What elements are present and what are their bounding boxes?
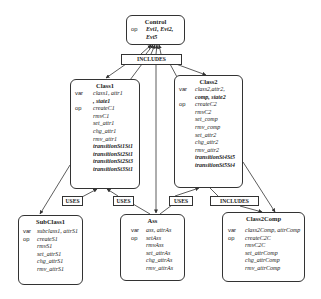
includes-label-class2comp: INCLUDES	[210, 196, 259, 206]
uses-label-class2-ass: USES	[169, 196, 193, 206]
class2comp-op: createC2C	[245, 235, 271, 243]
class1-var-keyword: var	[75, 90, 83, 98]
class2comp-op: set_attrComp	[245, 250, 278, 258]
uses-label-class1-ass: USES	[113, 196, 134, 206]
class1-op-keyword: op	[75, 105, 81, 113]
class1-transition: transitionSt1St1	[93, 143, 133, 151]
class1-op: createC1	[93, 105, 115, 113]
class2comp-var-keyword: var	[228, 227, 236, 235]
class2-title: Class2	[175, 78, 242, 86]
class2-op: rmv_attr2	[195, 147, 219, 155]
class2comp-var: class2Comp, attrComp	[245, 227, 300, 235]
subclass1-op: createS1	[37, 236, 58, 244]
class1-var: , state1	[93, 98, 110, 106]
ass-op: rmvAss	[146, 242, 164, 250]
subclass1-title: SubClass1	[19, 218, 82, 226]
class1-op: rmv_attr1	[93, 136, 117, 144]
ass-var: ass, attrAs	[146, 227, 171, 235]
subclass1-var-keyword: var	[23, 228, 31, 236]
subclass1-op: rmv_attrS1	[37, 266, 64, 274]
ass-op: setAss	[146, 235, 161, 243]
class1-title: Class1	[71, 82, 139, 90]
subclass1-var: subclass1, attrS1	[37, 228, 78, 236]
control-op-events-cont: Evt5	[146, 34, 157, 42]
subclass1-op: set_attrS1	[37, 251, 61, 259]
class1-op: chg_attr1	[93, 128, 116, 136]
class2comp-op: rmvC2C	[245, 242, 265, 250]
ass-op-keyword: op	[131, 235, 137, 243]
class2-op: rmvC2	[195, 109, 211, 117]
class2-var: comp, state2	[195, 94, 226, 102]
class2-op: createC2	[195, 101, 217, 109]
subclass1-op: chg_attrS1	[37, 258, 63, 266]
class2-op-keyword: op	[179, 101, 185, 109]
class2comp-node[interactable]: Class2Comp varclass2Comp, attrComp opcre…	[222, 212, 305, 282]
class1-transition: transitionSt3St1	[93, 166, 133, 174]
class2comp-op: chg_attrComp	[245, 257, 280, 265]
class2-op: rmv_comp	[195, 124, 220, 132]
subclass1-node[interactable]: SubClass1 varsubclass1, attrS1 opcreateS…	[18, 215, 83, 285]
includes-label-top: INCLUDES	[121, 54, 182, 65]
control-title: Control	[127, 18, 184, 26]
class2-node[interactable]: Class2 varclass2,attr2, comp, state2 opc…	[174, 75, 243, 188]
class1-op: rmvC1	[93, 113, 109, 121]
control-op-keyword: op	[131, 26, 137, 34]
ass-op: rmv_attrAs	[146, 265, 173, 273]
ass-node[interactable]: Ass varass, attrAs opsetAss rmvAss set_a…	[120, 214, 185, 281]
class2-op: chg_attr2	[195, 139, 218, 147]
class2-transition: transitionSt4St5	[195, 154, 235, 162]
class2comp-op-keyword: op	[228, 235, 234, 243]
class1-transition: transitionSt2St3	[93, 158, 133, 166]
diagram-canvas: Control op Evt1, Evt2, Evt5 INCLUDES Cla…	[0, 0, 321, 299]
ass-op: chg_attrAs	[146, 257, 172, 265]
control-node[interactable]: Control op Evt1, Evt2, Evt5	[126, 15, 185, 45]
class2-transition: transitionSt5St4	[195, 162, 235, 170]
ass-var-keyword: var	[131, 227, 139, 235]
class2-var: class2,attr2,	[195, 86, 225, 94]
class2comp-op: rmv_attrComp	[245, 265, 280, 273]
uses-label-subclass1: USES	[62, 196, 83, 206]
class2-var-keyword: var	[179, 86, 187, 94]
class2comp-title: Class2Comp	[223, 215, 304, 223]
ass-title: Ass	[121, 217, 184, 225]
class2-op: set_comp	[195, 116, 218, 124]
class2-op: set_attr2	[195, 132, 216, 140]
control-op-events: Evt1, Evt2,	[146, 26, 173, 34]
ass-op: set_attrAs	[146, 250, 170, 258]
subclass1-op: rmvS1	[37, 243, 52, 251]
class1-node[interactable]: Class1 varclass1, attr1 , state1 opcreat…	[70, 79, 140, 189]
subclass1-op-keyword: op	[23, 236, 29, 244]
class1-transition: transitionSt2St1	[93, 151, 133, 159]
class1-var: class1, attr1	[93, 90, 123, 98]
class1-op: set_attr1	[93, 120, 114, 128]
